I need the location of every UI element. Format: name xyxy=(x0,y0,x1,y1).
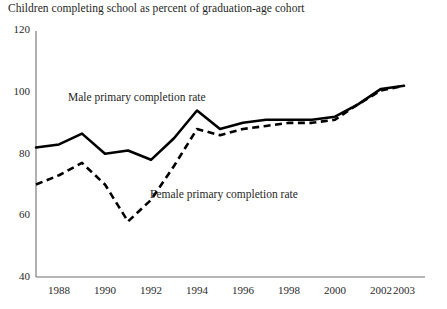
series-line-female xyxy=(36,86,404,222)
y-tick-label: 100 xyxy=(2,85,30,97)
x-tick-label: 1994 xyxy=(186,284,208,296)
y-tick-label: 120 xyxy=(2,23,30,35)
y-tick-label: 40 xyxy=(2,270,30,282)
axes xyxy=(36,31,425,277)
series-label-female: Female primary completion rate xyxy=(150,188,298,200)
x-tick-label: 2002 xyxy=(370,284,392,296)
x-tick-label: 2003 xyxy=(393,284,415,296)
x-tick-label: 1988 xyxy=(48,284,70,296)
y-tick-label: 60 xyxy=(2,208,30,220)
y-tick-label: 80 xyxy=(2,147,30,159)
chart-container: Children completing school as percent of… xyxy=(0,0,447,309)
x-tick-label: 1998 xyxy=(278,284,300,296)
x-tick-label: 1990 xyxy=(94,284,116,296)
data-series-group xyxy=(36,86,404,222)
plot-area xyxy=(0,0,447,309)
series-label-male: Male primary completion rate xyxy=(68,91,206,103)
x-tick-label: 1992 xyxy=(140,284,162,296)
x-tick-label: 1996 xyxy=(232,284,254,296)
x-tick-label: 2000 xyxy=(324,284,346,296)
